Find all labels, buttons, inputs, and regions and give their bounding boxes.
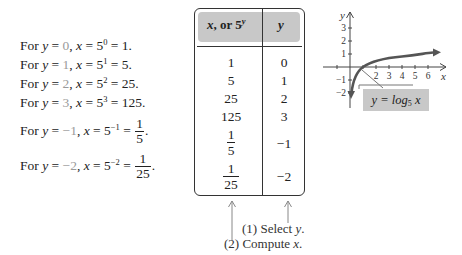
x-tick-label: 3 xyxy=(387,71,392,81)
x-axis-label: x xyxy=(440,70,446,82)
log-graph: 2 3 4 5 6 3 2 1 −1 −2 x y xyxy=(0,0,462,255)
x-tick-label: 2 xyxy=(374,71,379,81)
log-curve xyxy=(352,53,434,94)
x-tick-label: 6 xyxy=(426,71,431,81)
y-tick-label: 2 xyxy=(341,36,346,46)
curve-arrow-right-icon xyxy=(433,49,441,57)
x-tick-label: 5 xyxy=(413,71,418,81)
y-tick-label: −2 xyxy=(336,88,346,98)
y-axis-label: y xyxy=(339,9,345,21)
function-label: y = log5 x xyxy=(363,89,429,111)
y-tick-label: −1 xyxy=(336,75,346,85)
y-tick-label: 1 xyxy=(341,49,346,59)
curve-arrow-down-icon xyxy=(348,91,356,99)
y-tick-label: 3 xyxy=(341,23,346,33)
x-tick-label: 4 xyxy=(400,71,405,81)
